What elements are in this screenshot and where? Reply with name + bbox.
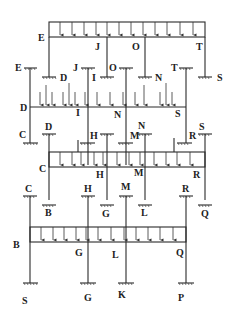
support-label: O [109,62,117,73]
label-O-top: O [132,41,140,52]
distributed-load-arrows [60,22,193,35]
fixed-support-icon [23,143,38,145]
support-label: H [90,130,98,141]
distributed-load-arrows [40,83,172,105]
support-label: M [121,181,131,192]
label-R-beam: R [193,169,201,180]
fixed-support-icon [100,77,114,79]
support-label: N [155,72,163,83]
label-M-beam: M [134,167,144,178]
support-label: G [102,208,110,219]
support-label: H [84,183,92,194]
label-C-beam: C [39,163,46,174]
support-label: C [25,183,32,194]
base-label: G [84,292,92,303]
support-label: D [45,121,52,132]
fixed-support-icon [198,77,212,79]
fixed-support-icon [198,205,212,207]
support-label: L [141,207,148,218]
support-label: S [217,72,223,83]
label-B-beam: B [13,239,20,250]
label-N-beam: N [114,109,122,120]
distributed-load-arrows [60,152,190,165]
tier-2-frame: E D J I O N T S [15,62,223,165]
fixed-support-icon [100,205,114,207]
support-label: I [92,72,96,83]
base-label: S [22,295,28,306]
label-J-top: J [95,41,100,52]
support-label: Q [201,208,209,219]
fixed-support-icon [177,143,192,145]
fixed-support-icon [23,283,38,285]
fixed-support-icon [42,77,56,79]
distributed-load-arrows [41,227,173,240]
fixed-support-icon [118,143,133,145]
support-label: E [15,62,22,73]
fixed-support-icon [118,283,134,285]
support-label: R [182,183,190,194]
support-label: J [73,62,78,73]
fixed-support-icon [178,283,194,285]
support-label: M [130,130,140,141]
base-label: K [118,289,126,300]
frame-diagram: E J O T [0,0,233,318]
support-label: S [199,121,205,132]
support-label: T [171,62,178,73]
support-label: R [189,130,197,141]
label-D-beam: D [20,102,27,113]
fixed-support-icon [80,143,95,145]
tier-4-frame: C B H G M L R Q B G L Q [13,181,212,306]
label-H-beam: H [96,169,104,180]
label-I-beam: I [76,107,80,118]
label-E-top: E [38,32,45,43]
support-label: D [60,72,67,83]
label-G-beam: G [75,247,83,258]
support-label: C [19,129,26,140]
fixed-support-icon [138,77,152,79]
label-L-beam: L [112,249,119,260]
label-T-top: T [196,41,203,52]
label-Q-beam: Q [176,247,184,258]
fixed-support-icon [80,283,96,285]
support-label: B [45,207,52,218]
base-label: P [178,292,184,303]
label-S-beam: S [175,108,181,119]
tier-1-beam: E J O T [38,22,205,77]
